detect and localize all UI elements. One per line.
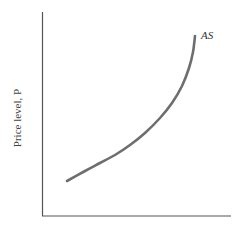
as-curve	[67, 36, 195, 181]
as-curve-label: AS	[201, 29, 213, 41]
y-axis-label: Price level, P	[11, 58, 23, 178]
